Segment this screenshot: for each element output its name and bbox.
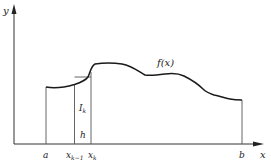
x-axis-label: x xyxy=(260,149,266,160)
curve-f-of-x xyxy=(46,63,242,100)
tick-label-x-km1: xk−1 xyxy=(66,150,84,161)
vertical-guides xyxy=(46,72,242,144)
y-axis: y xyxy=(2,4,17,144)
integral-diagram: y x f(x) Ik h a xk−1 xk b xyxy=(0,0,271,167)
tick-x-k-sub: k xyxy=(93,154,97,161)
x-axis-arrow-icon xyxy=(253,142,264,147)
x-axis: x xyxy=(14,142,266,161)
strip-height-label: Ik xyxy=(78,103,87,114)
y-axis-arrow-icon xyxy=(12,4,17,14)
tick-label-x-k: xk xyxy=(88,150,97,161)
tick-label-a: a xyxy=(43,150,48,160)
curve-label: f(x) xyxy=(156,57,174,68)
y-axis-label: y xyxy=(2,5,9,16)
strip-width-label: h xyxy=(80,130,86,140)
strip-height-sub: k xyxy=(83,107,87,114)
tick-x-km1-sub: k−1 xyxy=(71,154,83,161)
tick-label-b: b xyxy=(239,150,245,160)
